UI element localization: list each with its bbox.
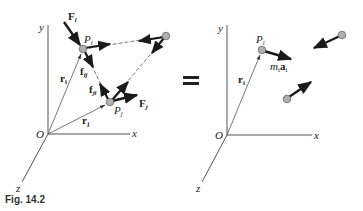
z-axis <box>202 135 227 182</box>
particle-pi <box>258 46 266 54</box>
z-axis <box>22 134 48 182</box>
particle-pi <box>79 45 87 53</box>
particle-pk <box>338 31 346 39</box>
z-axis-label: z <box>195 182 201 194</box>
fj-label: Fj <box>139 97 148 111</box>
origin-label: O <box>36 128 44 140</box>
x-axis-label: x <box>131 127 137 139</box>
figure-caption: Fig. 14.2 <box>5 194 45 205</box>
internal-force-k-to-i <box>139 37 164 41</box>
particle-system-figure: y x z O ri rj fij fji Fi Fj Pi Pj <box>0 0 363 211</box>
right-diagram: y x z O ri miai Pi <box>195 22 346 194</box>
internal-force-fij <box>85 52 93 67</box>
inertia-vector-pj <box>289 82 311 97</box>
inertia-vector-pk <box>314 36 340 48</box>
equals-sign <box>183 76 199 85</box>
internal-force-k-to-j <box>152 38 164 53</box>
external-force-fi <box>64 22 80 45</box>
y-axis-label: y <box>38 21 44 33</box>
particle-pj <box>283 95 291 103</box>
particle-pk <box>162 32 170 40</box>
miai-label: miai <box>270 60 287 74</box>
particle-pj <box>106 98 114 106</box>
inertia-vector-miai <box>264 51 291 59</box>
ri-label: ri <box>238 73 245 87</box>
origin-label: O <box>215 129 223 141</box>
fi-label: Fi <box>68 10 77 24</box>
ri-label: ri <box>60 72 67 86</box>
x-axis-label: x <box>313 129 319 141</box>
fij-label: fij <box>80 65 88 79</box>
pi-label: Pi <box>83 33 93 47</box>
pi-label: Pi <box>255 33 265 47</box>
internal-force-fji <box>100 84 108 99</box>
position-vector-rj <box>48 105 105 134</box>
position-vector-ri <box>48 54 81 134</box>
y-axis-label: y <box>217 22 223 34</box>
rj-label: rj <box>82 114 89 128</box>
fji-label: fji <box>89 83 97 97</box>
position-vector-ri <box>227 55 260 135</box>
left-diagram: y x z O ri rj fij fji Fi Fj Pi Pj <box>15 10 170 194</box>
z-axis-label: z <box>15 182 21 194</box>
pj-label: Pj <box>113 104 123 118</box>
